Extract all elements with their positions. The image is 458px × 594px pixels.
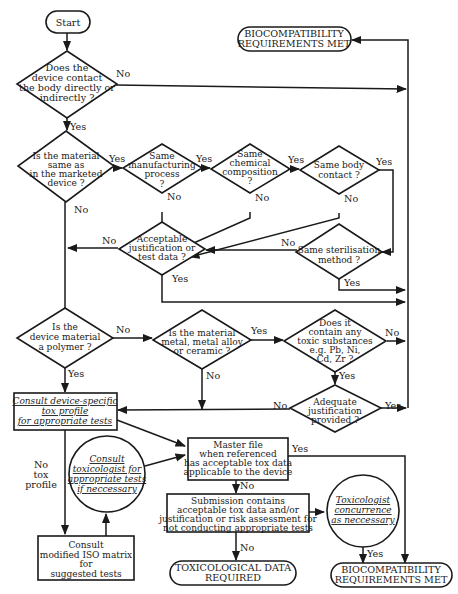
iso-line-1: Consult — [68, 540, 103, 550]
process-submission: Submission contains acceptable tox data … — [158, 494, 317, 533]
label-acceptable-yes: Yes — [171, 273, 188, 284]
q-body-line-1: Same body — [314, 160, 365, 170]
q-material-line-4: device ? — [47, 178, 84, 188]
q-manufacturing-line-3: process — [144, 169, 179, 179]
decision-sterilisation: Same sterilisation method ? — [296, 224, 382, 279]
toxicologist-line-1: Consult — [89, 454, 124, 464]
start-label: Start — [56, 17, 81, 28]
q-manufacturing-line-4: ? — [160, 179, 165, 189]
q-chemical-line-4: ? — [248, 176, 253, 186]
decision-same-material: Is the material same as in the marketed … — [18, 131, 114, 202]
label-chemical-yes: Yes — [287, 154, 304, 165]
terminal-tox-data-required: TOXICOLOGICAL DATA REQUIRED — [170, 561, 296, 585]
q-contact-line-4: indirectly ? — [40, 92, 95, 103]
toxicologist-line-3: appropriate tests — [68, 474, 147, 484]
decision-device-contact: Does the device contact the body directl… — [17, 51, 117, 118]
label-master-no: No — [240, 480, 254, 491]
edge-contact-no — [116, 85, 406, 89]
decision-body-contact: Same body contact ? — [300, 146, 379, 194]
label-material-no: No — [74, 204, 88, 215]
label-sterilisation-yes: Yes — [343, 277, 360, 288]
label-polymer-yes: Yes — [67, 368, 84, 379]
label-contact-yes: Yes — [69, 121, 86, 132]
consult-profile-line-1: Consult device-specific — [13, 396, 118, 406]
process-iso-matrix: Consult modified ISO matrix for suggeste… — [38, 536, 134, 580]
toxicologist-line-4: if neccessary — [77, 484, 138, 494]
biocompatibility-met-top: BIOCOMPATIBILITY REQUIREMENTS MET — [238, 27, 351, 51]
concurrence-line-1: Toxicologist — [336, 495, 391, 505]
decision-polymer: Is the device material a polymer ? — [17, 308, 113, 368]
q-sterilisation-line-2: method ? — [318, 255, 360, 265]
label-acceptable-no: No — [102, 235, 116, 246]
label-manufacturing-no: No — [167, 191, 181, 202]
consult-profile-line-2: tox profile — [42, 406, 89, 416]
label-submission-no: No — [240, 542, 254, 553]
label-sterilisation-no: No — [281, 237, 295, 248]
label-manufacturing-yes: Yes — [195, 153, 212, 164]
process-master-file: Master file when referenced has acceptab… — [184, 438, 293, 480]
met-bottom-line-2: REQUIREMENTS MET — [335, 574, 448, 585]
q-polymer-line-2: device material — [30, 332, 101, 342]
label-body-yes: Yes — [375, 156, 392, 167]
decision-chemical: Same chemical composition ? — [211, 144, 290, 193]
label-body-no: No — [344, 193, 358, 204]
process-consult-tox-profile: Consult device-specific tox profile for … — [13, 393, 118, 430]
q-polymer-line-3: a polymer ? — [38, 342, 91, 352]
label-metal-no: No — [206, 370, 220, 381]
biocompatibility-flowchart: Start BIOCOMPATIBILITY REQUIREMENTS MET … — [0, 0, 458, 594]
label-contact-no: No — [116, 68, 130, 79]
met-top-line-2: REQUIREMENTS MET — [238, 38, 351, 49]
consult-profile-line-3: for appropriate tests — [17, 416, 113, 426]
label-master-yes: Yes — [291, 443, 308, 454]
tox-required-line-2: REQUIRED — [205, 572, 261, 583]
label-metal-yes: Yes — [250, 325, 267, 336]
edge-toxicologist-master — [145, 455, 185, 466]
edge-acceptable-yes — [162, 275, 405, 302]
edge-body-yes — [378, 170, 393, 252]
edge-adequate-no — [118, 409, 290, 410]
label-concurrence-yes: Yes — [366, 548, 383, 559]
submission-line-4: not conducting appropriate tests — [163, 523, 313, 533]
q-toxic-line-5: Cd, Zr ? — [317, 354, 354, 364]
q-polymer-line-1: Is the — [52, 322, 78, 332]
start-node: Start — [46, 11, 90, 33]
toxicologist-line-2: toxicologist for — [73, 464, 142, 474]
q-sterilisation-line-1: Same sterilisation — [298, 245, 381, 255]
label-adequate-no: No — [273, 400, 287, 411]
iso-line-4: suggested tests — [50, 569, 122, 579]
decision-toxic-substances: Does it contain any toxic substances e.g… — [284, 310, 386, 372]
biocompatibility-met-bottom: BIOCOMPATIBILITY REQUIREMENTS MET — [331, 563, 452, 587]
concurrence-line-3: as neccessary — [331, 515, 395, 525]
concurrence-line-2: concurrence — [334, 505, 391, 515]
label-material-yes: Yes — [108, 153, 125, 164]
decision-manufacturing: Same manufacturing process ? — [123, 144, 202, 193]
q-body-line-2: contact ? — [318, 170, 360, 180]
iso-line-3: for — [79, 559, 93, 569]
label-toxic-yes: Yes — [338, 370, 355, 381]
process-consult-toxicologist: Consult toxicologist for appropriate tes… — [68, 436, 147, 512]
label-no-tox-profile-3: profile — [25, 479, 57, 490]
q-metal-line-3: or ceramic ? — [174, 346, 231, 356]
label-chemical-no: No — [255, 192, 269, 203]
q-acceptable-line-3: test data ? — [138, 252, 186, 262]
process-toxicologist-concurrence: Toxicologist concurrence as neccessary — [327, 475, 399, 547]
decision-adequate-justification: Adequate justification provided ? — [290, 385, 381, 432]
master-line-4: applicable to the device — [184, 467, 293, 477]
decision-acceptable-justification: Acceptable justification or test data ? — [119, 222, 205, 275]
q-adequate-line-3: provided ? — [311, 415, 359, 425]
label-polymer-no: No — [116, 324, 130, 335]
label-adequate-yes: Yes — [384, 400, 401, 411]
decision-metal: Is the material metal, metal alloy or ce… — [153, 310, 251, 369]
label-toxic-no: No — [385, 327, 399, 338]
